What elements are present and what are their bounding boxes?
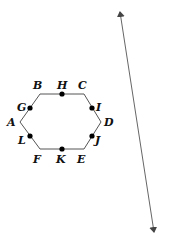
midpoint-dot-i bbox=[89, 105, 94, 110]
midpoint-label-k: K bbox=[55, 153, 66, 166]
midpoint-label-g: G bbox=[17, 101, 26, 114]
hexagon-abcdef bbox=[20, 94, 101, 149]
midpoint-label-l: L bbox=[17, 134, 26, 147]
vertex-label-d: D bbox=[103, 116, 114, 129]
midpoint-dot-k bbox=[59, 146, 64, 151]
midpoint-dot-g bbox=[27, 105, 32, 110]
vertex-label-c: C bbox=[78, 79, 87, 92]
midpoint-dot-j bbox=[89, 133, 94, 138]
vertex-label-b: B bbox=[32, 79, 42, 92]
vertex-label-e: E bbox=[76, 153, 86, 166]
midpoint-label-j: J bbox=[93, 134, 101, 147]
vertex-label-a: A bbox=[6, 116, 16, 129]
midpoint-dot-h bbox=[59, 91, 64, 96]
vertex-label-f: F bbox=[32, 153, 42, 166]
geometry-diagram: ABCDEF HIJKLG bbox=[0, 0, 169, 245]
midpoint-dot-l bbox=[27, 133, 32, 138]
midpoint-label-i: I bbox=[95, 101, 102, 114]
midpoints: HIJKLG bbox=[17, 79, 102, 166]
midpoint-label-h: H bbox=[56, 79, 68, 92]
double-arrow-line bbox=[120, 12, 154, 232]
